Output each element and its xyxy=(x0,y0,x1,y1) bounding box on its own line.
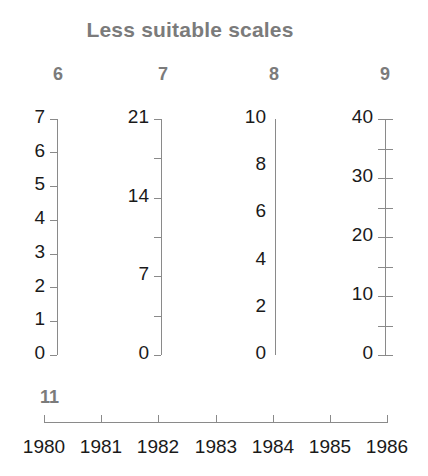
tick-label-6-4: 4 xyxy=(10,207,45,229)
tick-11-1980 xyxy=(44,415,45,422)
axis-line-11 xyxy=(44,422,388,423)
tick-label-6-3: 3 xyxy=(10,241,45,263)
axis-line-8 xyxy=(275,119,276,355)
figure-title: Less suitable scales xyxy=(0,18,380,42)
year-label-1986: 1986 xyxy=(357,436,417,458)
figure-canvas: Less suitable scales 6 7 8 9 7 6 5 4 3 2… xyxy=(0,0,428,476)
tick-7-14 xyxy=(154,198,161,199)
tick-6-3 xyxy=(50,254,57,255)
axis-line-6 xyxy=(57,119,58,355)
tick-6-7 xyxy=(50,119,57,120)
tick-label-7-0: 0 xyxy=(104,342,149,364)
tick-label-8-10: 10 xyxy=(218,106,266,128)
tick-9-40 xyxy=(378,119,393,120)
year-label-1980: 1980 xyxy=(14,436,74,458)
axis-line-7 xyxy=(161,119,162,355)
year-label-1981: 1981 xyxy=(71,436,131,458)
tick-9-minor-5 xyxy=(378,326,393,327)
tick-11-1985 xyxy=(330,415,331,422)
panel-number-7: 7 xyxy=(148,64,178,85)
tick-11-1983 xyxy=(216,415,217,422)
tick-label-6-5: 5 xyxy=(10,173,45,195)
tick-7-minor-10_5 xyxy=(154,237,161,238)
tick-11-1984 xyxy=(273,415,274,422)
tick-9-minor-25 xyxy=(378,208,393,209)
tick-9-0 xyxy=(378,355,393,356)
year-label-1985: 1985 xyxy=(300,436,360,458)
tick-9-minor-15 xyxy=(378,267,393,268)
tick-6-5 xyxy=(50,186,57,187)
tick-label-9-30: 30 xyxy=(325,165,373,187)
tick-label-7-21: 21 xyxy=(104,106,149,128)
tick-7-minor-3_5 xyxy=(154,316,161,317)
tick-7-minor-17_5 xyxy=(154,158,161,159)
tick-9-minor-35 xyxy=(378,149,393,150)
tick-label-9-10: 10 xyxy=(325,283,373,305)
tick-7-0 xyxy=(154,355,161,356)
tick-7-7 xyxy=(154,276,161,277)
tick-label-8-0: 0 xyxy=(218,342,266,364)
year-label-1982: 1982 xyxy=(128,436,188,458)
year-label-1984: 1984 xyxy=(243,436,303,458)
tick-label-9-40: 40 xyxy=(325,106,373,128)
tick-label-6-0: 0 xyxy=(10,342,45,364)
year-label-1983: 1983 xyxy=(186,436,246,458)
tick-9-30 xyxy=(378,178,393,179)
panel-number-11: 11 xyxy=(40,387,70,408)
tick-11-1981 xyxy=(101,415,102,422)
tick-label-6-6: 6 xyxy=(10,140,45,162)
tick-6-1 xyxy=(50,321,57,322)
tick-label-9-20: 20 xyxy=(325,224,373,246)
panel-number-6: 6 xyxy=(43,64,73,85)
tick-11-1986 xyxy=(387,415,388,422)
tick-9-10 xyxy=(378,296,393,297)
tick-label-8-8: 8 xyxy=(218,153,266,175)
tick-label-7-14: 14 xyxy=(104,185,149,207)
tick-label-9-0: 0 xyxy=(325,342,373,364)
tick-label-8-6: 6 xyxy=(218,200,266,222)
tick-label-8-4: 4 xyxy=(218,248,266,270)
tick-7-21 xyxy=(154,119,161,120)
tick-11-1982 xyxy=(158,415,159,422)
tick-6-0 xyxy=(50,355,57,356)
tick-label-7-7: 7 xyxy=(104,263,149,285)
tick-label-6-7: 7 xyxy=(10,106,45,128)
panel-number-9: 9 xyxy=(370,64,400,85)
tick-label-6-1: 1 xyxy=(10,308,45,330)
tick-label-8-2: 2 xyxy=(218,295,266,317)
tick-6-4 xyxy=(50,220,57,221)
tick-6-2 xyxy=(50,287,57,288)
tick-6-6 xyxy=(50,152,57,153)
panel-number-8: 8 xyxy=(259,64,289,85)
tick-9-20 xyxy=(378,237,393,238)
tick-label-6-2: 2 xyxy=(10,275,45,297)
